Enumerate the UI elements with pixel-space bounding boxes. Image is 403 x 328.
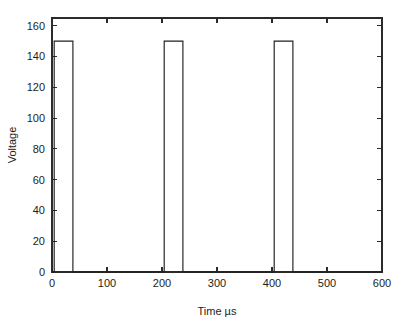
y-tick-label-160: 160: [27, 20, 45, 32]
x-axis-tick-labels: 0100200300400500600: [49, 277, 391, 289]
x-axis-title: Time µs: [198, 305, 237, 317]
x-tick-label-500: 500: [318, 277, 336, 289]
x-tick-label-0: 0: [49, 277, 55, 289]
x-tick-label-100: 100: [98, 277, 116, 289]
y-tick-label-40: 40: [33, 204, 45, 216]
y-tick-label-120: 120: [27, 81, 45, 93]
x-tick-label-600: 600: [373, 277, 391, 289]
y-axis-tick-labels: 020406080100120140160: [27, 20, 45, 278]
figure-canvas: 0100200300400500600 02040608010012014016…: [0, 0, 403, 328]
y-tick-label-80: 80: [33, 143, 45, 155]
voltage-pulse-chart: 0100200300400500600 02040608010012014016…: [0, 0, 403, 328]
y-tick-label-60: 60: [33, 174, 45, 186]
x-tick-label-200: 200: [153, 277, 171, 289]
y-tick-label-140: 140: [27, 50, 45, 62]
y-axis-title: Voltage: [6, 127, 18, 164]
y-tick-label-100: 100: [27, 112, 45, 124]
x-tick-label-400: 400: [263, 277, 281, 289]
plot-background: [52, 18, 382, 272]
y-tick-label-0: 0: [39, 266, 45, 278]
y-tick-label-20: 20: [33, 235, 45, 247]
x-tick-label-300: 300: [208, 277, 226, 289]
